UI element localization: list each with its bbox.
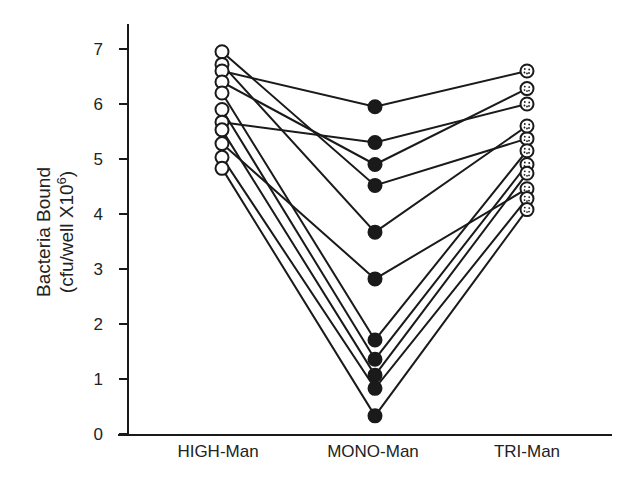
y-tick-label: 1 <box>94 370 103 389</box>
y-axis-title-line1: Bacteria Bound <box>33 167 54 297</box>
marker-stipple-dot <box>528 200 530 202</box>
y-axis-title: Bacteria Bound (cfu/well X106) <box>33 167 77 297</box>
marker-stipple-dot <box>524 86 526 88</box>
marker-stipple-dot <box>526 152 528 154</box>
marker-stipple-dot <box>528 148 530 150</box>
paired-dot-chart: 01234567 HIGH-Man MONO-Man TRI-Man Bacte… <box>0 0 640 483</box>
marker-stipple-dot <box>528 140 530 142</box>
marker-stipple-dot <box>528 207 530 209</box>
marker-stipple-dot <box>526 140 528 142</box>
marker-stipple-dot <box>528 105 530 107</box>
open-circle-marker <box>216 162 229 175</box>
marker-stipple-dot <box>528 102 530 104</box>
y-axis-title-close: ) <box>56 171 77 177</box>
dotted-circle-marker <box>521 120 534 133</box>
marker-stipple-dot <box>524 89 526 91</box>
marker-stipple-dot <box>524 162 526 164</box>
y-tick-label: 4 <box>94 205 103 224</box>
open-circle-marker <box>216 137 229 150</box>
filled-circle-marker <box>369 158 382 171</box>
y-axis-title-unit: (cfu/well X10 <box>56 184 77 293</box>
marker-stipple-dot <box>528 90 530 92</box>
marker-stipple-dot <box>524 105 526 107</box>
dotted-circle-marker <box>521 82 534 95</box>
y-tick-label: 3 <box>94 260 103 279</box>
filled-circle-marker <box>369 100 382 113</box>
marker-stipple-dot <box>526 211 528 213</box>
y-axis-title-line2: (cfu/well X106) <box>54 171 77 293</box>
marker-stipple-dot <box>524 101 526 103</box>
marker-stipple-dot <box>526 200 528 202</box>
marker-stipple-dot <box>524 148 526 150</box>
marker-stipple-dot <box>524 170 526 172</box>
marker-stipple-dot <box>528 72 530 74</box>
y-axis-ticks: 01234567 <box>94 40 128 444</box>
marker-stipple-dot <box>528 69 530 71</box>
marker-stipple-dot <box>528 171 530 173</box>
x-category-label-high-man: HIGH-Man <box>177 442 258 461</box>
marker-stipple-dot <box>524 127 526 129</box>
marker-stipple-dot <box>524 151 526 153</box>
marker-stipple-dot <box>526 175 528 177</box>
marker-stipple-dot <box>526 106 528 108</box>
marker-stipple-dot <box>526 90 528 92</box>
marker-stipple-dot <box>524 199 526 201</box>
x-category-label-mono-man: MONO-Man <box>327 442 419 461</box>
y-tick-label: 2 <box>94 315 103 334</box>
marker-stipple-dot <box>524 207 526 209</box>
y-axis-title-exponent: 6 <box>54 177 69 184</box>
open-circle-marker <box>216 87 229 100</box>
open-circle-marker <box>216 123 229 136</box>
dotted-circle-marker <box>521 167 534 180</box>
marker-stipple-dot <box>524 186 526 188</box>
y-tick-label: 6 <box>94 95 103 114</box>
filled-circle-marker <box>369 369 382 382</box>
marker-stipple-dot <box>528 211 530 213</box>
dotted-circle-marker <box>521 144 534 157</box>
filled-circle-marker <box>369 409 382 422</box>
filled-circle-marker <box>369 382 382 395</box>
marker-stipple-dot <box>524 72 526 74</box>
filled-circle-marker <box>369 272 382 285</box>
marker-stipple-dot <box>524 68 526 70</box>
dotted-circle-marker <box>521 65 534 78</box>
marker-stipple-dot <box>528 152 530 154</box>
marker-stipple-dot <box>528 186 530 188</box>
filled-circle-marker <box>369 136 382 149</box>
marker-stipple-dot <box>524 189 526 191</box>
marker-stipple-dot <box>528 86 530 88</box>
marker-stipple-dot <box>524 210 526 212</box>
y-tick-label: 0 <box>94 425 103 444</box>
y-tick-label: 7 <box>94 40 103 59</box>
marker-stipple-dot <box>524 139 526 141</box>
open-circle-marker <box>216 45 229 58</box>
marker-stipple-dot <box>528 124 530 126</box>
dotted-circle-marker <box>521 98 534 111</box>
dotted-circle-marker <box>521 203 534 216</box>
marker-stipple-dot <box>524 136 526 138</box>
marker-stipple-dot <box>528 196 530 198</box>
marker-stipple-dot <box>524 174 526 176</box>
filled-circle-marker <box>369 226 382 239</box>
filled-circle-marker <box>369 333 382 346</box>
open-circle-marker <box>216 103 229 116</box>
marker-stipple-dot <box>528 174 530 176</box>
marker-stipple-dot <box>528 162 530 164</box>
marker-stipple-dot <box>528 127 530 129</box>
filled-circle-marker <box>369 353 382 366</box>
x-category-label-tri-man: TRI-Man <box>494 442 560 461</box>
marker-stipple-dot <box>526 128 528 130</box>
y-tick-label: 5 <box>94 150 103 169</box>
dotted-circle-marker <box>521 132 534 145</box>
marker-stipple-dot <box>524 123 526 125</box>
marker-stipple-dot <box>524 196 526 198</box>
filled-circle-marker <box>369 179 382 192</box>
marker-stipple-dot <box>528 136 530 138</box>
marker-stipple-dot <box>526 73 528 75</box>
